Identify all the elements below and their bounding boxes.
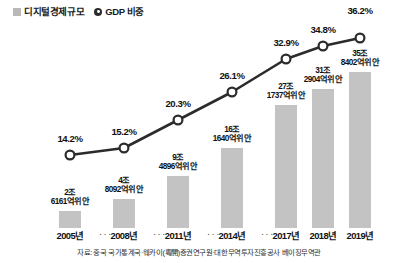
bar-value-2008-line2: 8092억위안 [80,185,168,194]
bar-value-2014-line1: 16조 [188,125,276,134]
x-tick-2019: 2019년 [332,228,388,242]
pct-label-2018: 34.8% [289,24,357,35]
pct-label-2017: 32.9% [252,37,320,48]
x-tick-2014: 2014년 [204,228,260,242]
x-tick-2008: 2008년 [96,228,152,242]
bar-2005 [59,211,81,228]
x-axis: 2005년 ··· 2008년 ··· 2011년 ··· 2014년 ··· … [0,228,398,242]
bar-value-2018-line1: 31조 [279,66,367,75]
pct-label-2008: 15.2% [90,126,158,137]
bar-2008 [113,199,135,228]
bar-value-2008-line1: 4조 [80,176,168,185]
bar-value-2017-line2: 1737억위안 [242,91,330,100]
bar-value-2019-line1: 35조 [316,49,398,58]
bar-value-2017: 27조 1737억위안 [242,82,330,100]
bar-value-2011-line1: 9조 [134,153,222,162]
bar-2017 [275,105,297,228]
bar-2018 [312,89,334,228]
plot-area: 2조 6161억위안 4조 8092억위안 9조 4896억위안 16조 164… [0,0,398,263]
pct-label-2014: 26.1% [198,70,266,81]
x-tick-2005: 2005년 [42,228,98,242]
bar-value-2018-line2: 2904억위안 [279,75,367,84]
bar-value-2019-line2: 8402억위안 [316,58,398,67]
bar-value-2011: 9조 4896억위안 [134,153,222,171]
pct-label-2011: 20.3% [144,98,212,109]
source-note: 자료: 중국 국가통계국·웨카이(粤開)증권연구원·대한무역투자진흥공사 베이징… [0,246,398,257]
bar-value-2019: 35조 8402억위안 [316,49,398,67]
bar-2011 [167,176,189,228]
bar-value-2008: 4조 8092억위안 [80,176,168,194]
bar-value-2011-line2: 4896억위안 [134,162,222,171]
bar-value-2014: 16조 1640억위안 [188,125,276,143]
digital-economy-chart: 디지털경제규모 GDP 비중 2조 6161억위안 4조 8092억위안 9조 … [0,0,398,263]
bar-value-2005-line2: 6161억위안 [26,197,114,206]
bar-2014 [221,148,243,228]
x-tick-2011: 2011년 [150,228,206,242]
bar-value-2018: 31조 2904억위안 [279,66,367,84]
bar-2019 [349,72,371,228]
bar-value-2014-line2: 1640억위안 [188,134,276,143]
pct-label-2019: 36.2% [326,5,394,16]
